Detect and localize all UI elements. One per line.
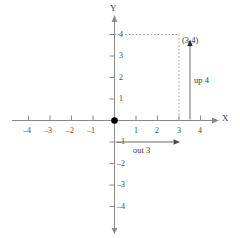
x-tick-label-4: 4 <box>198 127 202 135</box>
y-axis-ticks-negative <box>110 142 115 207</box>
x-tick-label-2: 2 <box>155 127 159 135</box>
x-tick-label-neg4: –4 <box>23 127 31 135</box>
up-4-label: up 4 <box>194 76 209 85</box>
x-tick-label-neg1: –1 <box>87 127 95 135</box>
origin-point <box>111 117 118 124</box>
x-tick-label-neg3: –3 <box>44 127 52 135</box>
x-tick-label-neg2: –2 <box>66 127 74 135</box>
y-tick-label-neg2: –2 <box>117 160 125 168</box>
point-label-3-4: (3,4) <box>182 36 198 45</box>
y-axis-ticks-positive <box>110 35 115 100</box>
y-axis-label: Y <box>110 4 117 13</box>
y-tick-label-3: 3 <box>119 52 123 60</box>
y-tick-label-1: 1 <box>119 95 123 103</box>
y-tick-label-neg3: –3 <box>117 181 125 189</box>
y-tick-label-neg4: –4 <box>117 203 125 211</box>
y-tick-label-neg1: –1 <box>117 138 125 146</box>
x-tick-label-3: 3 <box>177 127 181 135</box>
x-axis-ticks-positive <box>136 116 201 121</box>
out-3-label: out 3 <box>133 146 150 155</box>
out-3-arrow <box>116 139 181 144</box>
x-axis-ticks-negative <box>29 116 94 121</box>
x-tick-label-1: 1 <box>134 127 138 135</box>
coordinate-plane-figure: X Y –4 –3 –2 –1 1 2 3 4 4 3 2 1 –1 –2 –3… <box>0 0 240 238</box>
x-axis-label: X <box>222 114 229 123</box>
y-tick-label-4: 4 <box>119 31 123 39</box>
guide-lines-to-point <box>115 35 180 121</box>
up-4-arrow <box>187 40 192 120</box>
y-tick-label-2: 2 <box>119 74 123 82</box>
